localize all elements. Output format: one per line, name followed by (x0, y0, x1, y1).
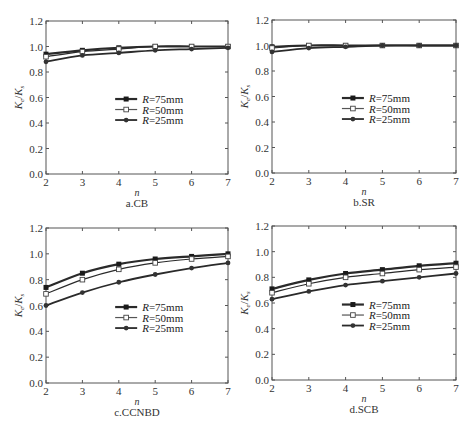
chart-svg: 0.00.20.40.60.81.01.2234567nd.SCBKe/KsR=… (0, 0, 472, 428)
filled-circle-marker-icon (343, 283, 348, 288)
filled-circle-marker-icon (417, 275, 422, 280)
filled-square-marker-icon (350, 302, 355, 307)
filled-circle-marker-icon (380, 279, 385, 284)
y-tick-label: 0.4 (255, 323, 269, 335)
panel-caption: d.SCB (349, 403, 378, 415)
open-square-marker-icon (351, 313, 356, 318)
filled-circle-marker-icon (454, 271, 459, 276)
x-tick-label: 3 (306, 382, 312, 394)
y-tick-label: 0.2 (255, 348, 269, 360)
y-tick-label: 0.6 (255, 297, 269, 309)
x-tick-label: 7 (453, 382, 459, 394)
chart-panel-d: 0.00.20.40.60.81.01.2234567nd.SCBKe/KsR=… (0, 0, 236, 214)
x-tick-label: 4 (343, 382, 349, 394)
legend-label: R=25mm (368, 320, 410, 332)
y-tick-label: 0.0 (255, 374, 269, 386)
y-axis-label: Ke/Ks (238, 291, 252, 316)
open-square-marker-icon (380, 271, 385, 276)
open-square-marker-icon (417, 267, 422, 272)
x-tick-label: 5 (380, 382, 386, 394)
open-square-marker-icon (270, 290, 275, 295)
open-square-marker-icon (307, 281, 312, 286)
y-tick-label: 0.8 (255, 271, 269, 283)
plot-frame (272, 226, 456, 380)
filled-circle-marker-icon (351, 323, 356, 328)
x-tick-label: 6 (416, 382, 422, 394)
open-square-marker-icon (343, 275, 348, 280)
x-tick-label: 2 (269, 382, 275, 394)
filled-circle-marker-icon (270, 297, 275, 302)
y-tick-label: 1.2 (255, 220, 269, 232)
open-square-marker-icon (454, 265, 459, 270)
filled-circle-marker-icon (306, 289, 311, 294)
y-tick-label: 1.0 (255, 246, 269, 258)
